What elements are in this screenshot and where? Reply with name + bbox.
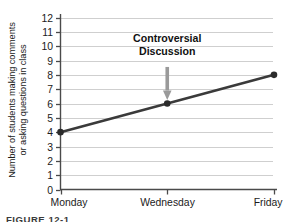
annotation-text-line-2: Discussion — [139, 45, 196, 57]
y-axis-tick-label: 2 — [47, 156, 53, 167]
y-axis-tick-label: 8 — [47, 70, 53, 81]
data-point-marker — [271, 72, 278, 79]
y-axis-tick-label: 11 — [42, 27, 53, 38]
y-axis-tick-label: 0 — [47, 185, 53, 196]
arrow-shaft — [165, 67, 169, 91]
line-chart: 0123456789101112 MondayWednesdayFriday C… — [0, 0, 290, 222]
x-axis-tick-label: Wednesday — [140, 197, 195, 208]
y-axis-tick-label: 12 — [41, 13, 53, 24]
x-axis-tick-label: Monday — [51, 197, 89, 208]
annotation-text-line-1: Controversial — [133, 32, 201, 44]
y-axis-tick-label: 1 — [47, 170, 53, 181]
figure-caption: FIGURE 12-1 — [6, 214, 70, 222]
y-axis-tick-label: 4 — [47, 127, 53, 138]
y-axis-tick-label: 7 — [47, 84, 53, 95]
annotation-label: ControversialDiscussion — [133, 32, 201, 57]
y-axis-tick-label: 6 — [47, 99, 53, 110]
figure-container: Number of students making comments or as… — [0, 0, 290, 222]
y-axis-tick-labels: 0123456789101112 — [41, 13, 53, 196]
annotation-arrow-icon — [163, 67, 172, 100]
y-axis-tick-label: 10 — [41, 41, 53, 52]
x-axis-tick-labels: MondayWednesdayFriday — [51, 197, 284, 208]
x-axis-tick-label: Friday — [254, 197, 284, 208]
x-axis-ticks — [62, 190, 275, 195]
y-axis-tick-label: 9 — [47, 56, 53, 67]
data-point-marker — [57, 129, 64, 136]
arrow-head — [163, 91, 172, 101]
data-point-marker — [164, 100, 171, 107]
y-axis-tick-label: 3 — [47, 142, 53, 153]
y-axis-tick-label: 5 — [47, 113, 53, 124]
